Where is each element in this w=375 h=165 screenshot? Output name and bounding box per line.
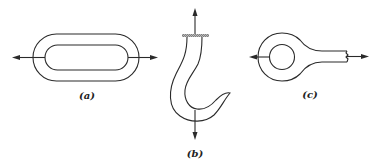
figure: (a) (b) (c): [0, 0, 375, 165]
arrow-right-icon-c: [361, 54, 369, 59]
link-inner-outline: [45, 45, 128, 70]
link-outer-outline: [33, 34, 139, 81]
panel-label-c: (c): [302, 89, 318, 100]
figure-canvas: (a) (b) (c): [0, 0, 375, 165]
panel-a-chain-link: (a): [12, 34, 158, 101]
panel-label-a: (a): [79, 90, 95, 101]
hook-body-outline: [170, 37, 230, 121]
fixed-support-hatch: [182, 34, 209, 37]
eye-outer-outline: [258, 33, 347, 81]
panel-c-eye-bar: (c): [249, 33, 369, 100]
arrow-right-icon: [150, 55, 158, 60]
pin-hole: [270, 45, 295, 70]
arrow-left-icon: [12, 55, 20, 60]
arrow-down-icon: [193, 132, 198, 140]
arrow-up-icon: [193, 8, 198, 16]
arrow-left-icon-c: [249, 55, 257, 60]
panel-label-b: (b): [187, 148, 204, 159]
panel-b-crane-hook: (b): [170, 8, 230, 159]
